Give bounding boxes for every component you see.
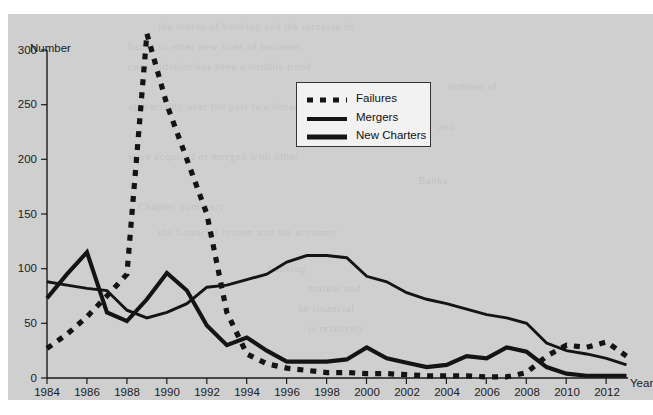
x-tick-label: 1984: [30, 386, 64, 398]
legend-entry-new-charters: New Charters: [306, 126, 426, 144]
series-line-new-charters: [47, 252, 627, 376]
x-tick-label: 2000: [350, 386, 384, 398]
x-tick-label: 2006: [470, 386, 504, 398]
legend-entry-failures: Failures: [306, 89, 397, 107]
solid-thin-line-swatch: [306, 111, 348, 123]
x-tick-label: 1986: [70, 386, 104, 398]
y-tick-marks: [41, 50, 47, 378]
x-tick-label: 1996: [270, 386, 304, 398]
y-tick-label: 300: [11, 44, 37, 56]
y-tick-label: 100: [11, 262, 37, 274]
y-tick-label: 150: [11, 208, 37, 220]
x-tick-label: 1994: [230, 386, 264, 398]
x-tick-label: 1992: [190, 386, 224, 398]
x-tick-label: 2008: [510, 386, 544, 398]
x-tick-label: 2010: [550, 386, 584, 398]
x-tick-label: 2012: [590, 386, 624, 398]
x-axis-title: Year: [630, 377, 653, 389]
x-tick-label: 2004: [430, 386, 464, 398]
y-tick-label: 50: [11, 317, 37, 329]
x-tick-marks: [47, 378, 606, 384]
x-tick-label: 1990: [150, 386, 184, 398]
y-tick-label: 0: [11, 372, 37, 384]
dotted-line-swatch: [306, 92, 348, 104]
legend-label: Mergers: [356, 111, 398, 123]
x-tick-label: 1998: [310, 386, 344, 398]
solid-thick-line-swatch: [306, 129, 348, 141]
x-tick-label: 2002: [390, 386, 424, 398]
y-tick-label: 250: [11, 98, 37, 110]
y-tick-label: 200: [11, 153, 37, 165]
chart-svg: [8, 14, 653, 400]
chart-page: the notion of banking and the increase i…: [0, 0, 653, 415]
x-tick-label: 1988: [110, 386, 144, 398]
legend-label: Failures: [356, 92, 397, 104]
legend-entry-mergers: Mergers: [306, 108, 398, 126]
legend-label: New Charters: [356, 129, 426, 141]
chart-plot-panel: the notion of banking and the increase i…: [8, 14, 653, 400]
chart-legend: Failures Mergers New Charters: [296, 82, 431, 147]
series-line-mergers: [47, 256, 627, 365]
